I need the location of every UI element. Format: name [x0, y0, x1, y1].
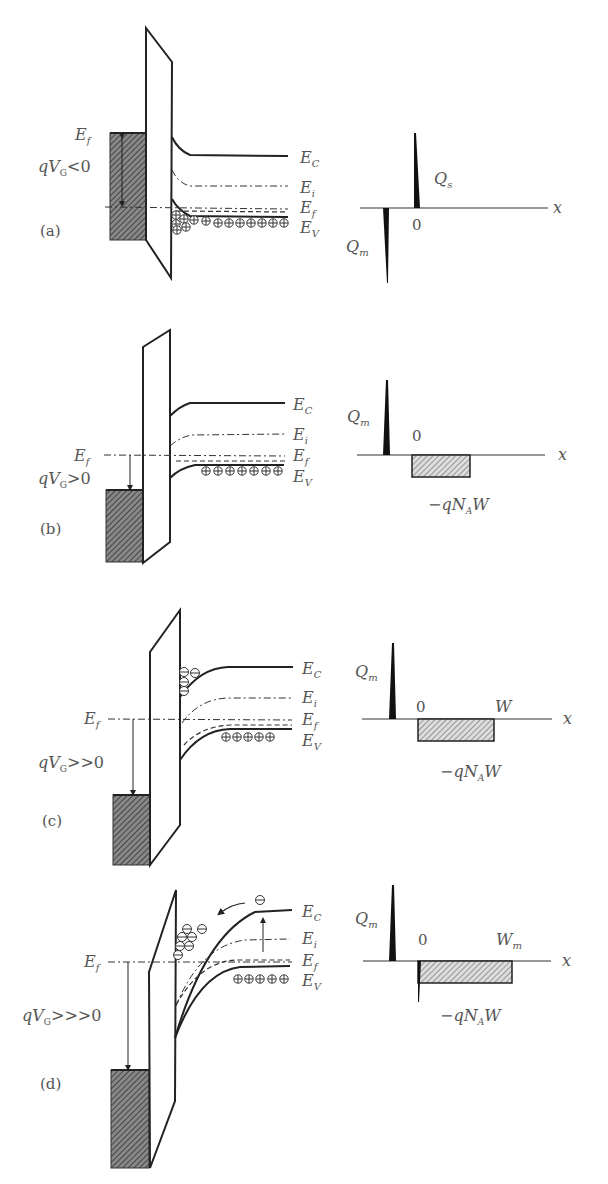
panel-label: (c) [42, 812, 62, 830]
metal-ef-label: Ef [83, 709, 102, 730]
origin-label: 0 [412, 216, 422, 234]
panel-label: (a) [40, 222, 61, 240]
ei-label: Ei [301, 929, 317, 950]
origin-label: 0 [418, 931, 428, 949]
charge-distribution-c: Qm 0 W x −qNAW [355, 643, 572, 783]
fermi-level [104, 455, 285, 456]
metal-gate [110, 133, 146, 240]
ef-label: Ef [301, 951, 320, 972]
intrinsic-level [172, 170, 288, 186]
conduction-band [170, 403, 285, 416]
x-label: x [558, 445, 567, 464]
band-diagram-b: Ef qVG>0 (b) EC Ei Ef EV [38, 330, 314, 563]
qm-spike [383, 380, 390, 455]
inversion-electrons [174, 896, 265, 960]
majority-holes [222, 733, 274, 741]
oxide-layer [150, 610, 180, 865]
depletion-charge-label: −qNAW [440, 1006, 502, 1027]
qs-label: Qs [434, 169, 452, 190]
acceptor-level [176, 211, 288, 212]
depletion-charge-label: −qNAW [428, 495, 490, 516]
ei-label: Ei [299, 178, 315, 199]
ef-label: Ef [301, 710, 320, 731]
ec-label: EC [292, 395, 313, 416]
majority-holes [234, 975, 288, 983]
qs-spike [414, 133, 420, 208]
bias-label: qVG>>0 [38, 753, 104, 774]
oxide-layer [149, 890, 176, 1168]
accumulated-holes [172, 211, 288, 234]
ef-label: Ef [299, 198, 318, 219]
qm-spike [383, 208, 389, 283]
panel-c: Ef qVG>>0 (c) EC Ei Ef EV Qm 0 W x −qNAW [38, 610, 572, 865]
panel-a: Ef qVG<0 (a) EC Ei Ef EV Qs Qm 0 x [38, 28, 562, 283]
depletion-charge-box [418, 719, 494, 741]
panel-label: (b) [40, 520, 61, 538]
bias-label: qVG>0 [38, 469, 91, 490]
panel-d: Ef qVG>>>0 (d) EC Ei Ef EV Qm 0 Wm x −qN… [22, 885, 571, 1168]
charge-distribution-d: Qm 0 Wm x −qNAW [355, 885, 571, 1027]
x-label: x [563, 709, 572, 728]
ev-label: EV [292, 467, 314, 488]
x-label: x [553, 198, 562, 217]
depletion-charge-box [412, 455, 470, 477]
fermi-level [108, 719, 292, 720]
width-label: W [495, 697, 513, 716]
band-diagram-a: Ef qVG<0 (a) EC Ei Ef EV [38, 28, 321, 278]
charge-distribution-a: Qs Qm 0 x [346, 133, 562, 283]
panel-label: (d) [40, 1075, 61, 1093]
depletion-charge-label: −qNAW [440, 762, 502, 783]
bias-label: qVG>>>0 [22, 1006, 101, 1027]
panel-b: Ef qVG>0 (b) EC Ei Ef EV Qm 0 x −qNAW [38, 330, 567, 563]
x-label: x [562, 951, 571, 970]
band-diagram-c: Ef qVG>>0 (c) EC Ei Ef EV [38, 610, 323, 865]
ei-label: Ei [301, 688, 317, 709]
ev-label: EV [301, 731, 323, 752]
qm-label: Qm [355, 662, 378, 683]
ef-label: Ef [292, 446, 311, 467]
oxide-layer [146, 28, 172, 278]
qm-label: Qm [346, 237, 369, 258]
ev-label: EV [299, 218, 321, 239]
charge-distribution-b: Qm 0 x −qNAW [347, 380, 567, 516]
ei-label: Ei [292, 425, 308, 446]
conduction-band [172, 137, 288, 156]
metal-ef-label: Ef [83, 952, 102, 973]
qm-spike [389, 885, 396, 961]
intrinsic-level [176, 939, 290, 1006]
metal-gate [106, 490, 143, 562]
width-label: Wm [496, 930, 522, 951]
majority-holes [202, 467, 282, 475]
qm-label: Qm [347, 407, 370, 428]
metal-ef-label: Ef [74, 125, 93, 146]
ec-label: EC [301, 659, 322, 680]
metal-ef-label: Ef [73, 446, 92, 467]
depletion-charge-box [418, 961, 512, 983]
bias-label: qVG<0 [38, 157, 91, 178]
mos-band-diagram-figure: Ef qVG<0 (a) EC Ei Ef EV Qs Qm 0 x [0, 0, 608, 1184]
oxide-layer [143, 330, 170, 563]
inversion-electrons [180, 668, 200, 696]
metal-gate [111, 1070, 149, 1168]
electron-injection-arrow [220, 903, 245, 913]
metal-gate [113, 795, 150, 865]
qm-label: Qm [355, 909, 378, 930]
ev-label: EV [301, 971, 323, 992]
origin-label: 0 [416, 698, 426, 716]
ec-label: EC [301, 902, 322, 923]
intrinsic-level [170, 434, 285, 446]
qm-spike [389, 643, 396, 719]
band-diagram-d: Ef qVG>>>0 (d) EC Ei Ef EV [22, 890, 323, 1168]
origin-label: 0 [412, 427, 422, 445]
ec-label: EC [299, 148, 320, 169]
